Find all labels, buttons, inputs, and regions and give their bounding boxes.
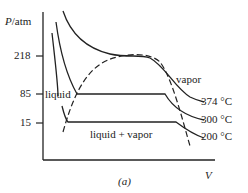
isotherm-label-200: 200 °C: [201, 131, 232, 142]
y-axis-variable: P: [5, 15, 12, 27]
y-tick-label-15: 15: [20, 117, 31, 128]
x-axis-label: V: [205, 170, 212, 181]
y-axis-label: P/atm: [5, 16, 31, 27]
isotherm-label-374: 374 °C: [201, 96, 232, 107]
figure-caption: (a): [118, 176, 131, 187]
y-tick-label-218: 218: [14, 50, 31, 61]
region-label-coexistence: liquid + vapor: [90, 129, 152, 140]
isotherm-label-300: 300 °C: [201, 114, 232, 125]
region-label-vapor: vapor: [176, 74, 201, 85]
y-tick-label-85: 85: [20, 88, 31, 99]
isotherm-374: [63, 11, 204, 102]
isotherm-200: [52, 33, 204, 138]
region-label-liquid: liquid: [45, 89, 71, 100]
y-axis-unit: /atm: [12, 15, 32, 27]
